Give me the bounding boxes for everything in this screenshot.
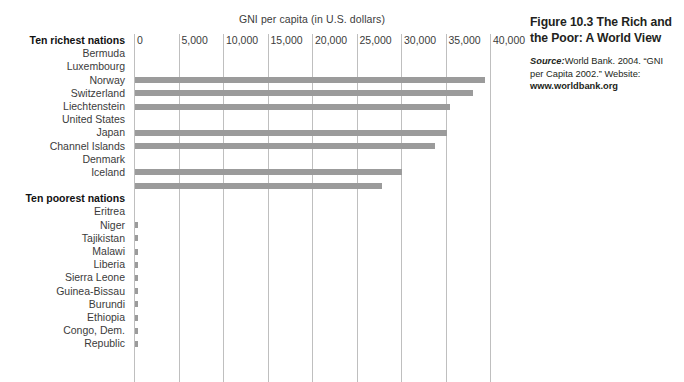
bar-row (134, 126, 490, 139)
bar (135, 262, 138, 268)
bar-row (134, 245, 490, 258)
bar-row (134, 192, 490, 205)
bar-row (134, 337, 490, 350)
source-url: www.worldbank.org (530, 81, 618, 91)
bar-row (134, 140, 490, 153)
x-tick-label: 20,000 (312, 34, 347, 47)
bar-row (134, 47, 490, 60)
x-tick-label: 30,000 (401, 34, 436, 47)
bar-row (134, 285, 490, 298)
bar (135, 104, 450, 110)
category-label: Tajikistan (0, 232, 130, 245)
category-label: Ethiopia (0, 311, 130, 324)
bar-row (134, 232, 490, 245)
x-tick-label: 10,000 (223, 34, 258, 47)
source-label: Source: (530, 56, 565, 66)
bars-layer (134, 47, 490, 382)
figure-caption: Figure 10.3 The Rich and the Poor: A Wor… (530, 14, 674, 93)
category-label-column: Ten richest nationsBermudaLuxembourgNorw… (0, 34, 130, 351)
x-tick-label: 25,000 (357, 34, 392, 47)
bar-row (134, 153, 490, 166)
caption-figure-number: Figure 10.3 (530, 15, 593, 29)
bar-row (134, 166, 490, 179)
category-label: Eritrea (0, 205, 130, 218)
chart-block: GNI per capita (in U.S. dollars) Ten ric… (0, 0, 520, 382)
figure-container: GNI per capita (in U.S. dollars) Ten ric… (0, 0, 684, 382)
bar (135, 90, 473, 96)
bar-row (134, 351, 490, 364)
category-label: Niger (0, 219, 130, 232)
bar-row (134, 311, 490, 324)
bar (135, 341, 138, 347)
category-label: Liberia (0, 258, 130, 271)
bar-row (134, 219, 490, 232)
category-label: Luxembourg (0, 60, 130, 73)
bar (135, 77, 485, 83)
bar (135, 222, 138, 228)
x-tick-label: 40,000 (490, 34, 525, 47)
bar-row (134, 87, 490, 100)
category-label: United States (0, 113, 130, 126)
category-label: Norway (0, 74, 130, 87)
category-label: Congo, Dem. (0, 324, 130, 337)
bar-row (134, 258, 490, 271)
bar-row (134, 100, 490, 113)
category-label: Sierra Leone (0, 271, 130, 284)
category-label: Channel Islands (0, 140, 130, 153)
chart-title: GNI per capita (in U.S. dollars) (134, 13, 490, 25)
bar (135, 130, 447, 136)
bar-row (134, 324, 490, 337)
bar-row (134, 271, 490, 284)
bar-row (134, 74, 490, 87)
category-label: Malawi (0, 245, 130, 258)
category-label: Denmark (0, 153, 130, 166)
category-label: Burundi (0, 298, 130, 311)
category-label: Guinea-Bissau (0, 285, 130, 298)
bar-row (134, 298, 490, 311)
bar (135, 183, 382, 189)
x-tick-label: 5,000 (179, 34, 208, 47)
category-label: Republic (0, 337, 130, 350)
category-label: Iceland (0, 166, 130, 179)
bar-row (134, 179, 490, 192)
category-label: Japan (0, 126, 130, 139)
row-spacer (0, 179, 130, 192)
bar (135, 143, 435, 149)
group-label: Ten richest nations (0, 34, 130, 47)
plot-area: 05,00010,00015,00020,00025,00030,00035,0… (134, 34, 490, 382)
caption-source: Source:World Bank. 2004. “GNI per Capita… (530, 55, 674, 93)
bar (135, 301, 138, 307)
x-tick-label: 15,000 (268, 34, 303, 47)
category-label: Liechtenstein (0, 100, 130, 113)
caption-heading: Figure 10.3 The Rich and the Poor: A Wor… (530, 14, 674, 46)
bar (135, 169, 402, 175)
bar (135, 249, 138, 255)
bar-row (134, 60, 490, 73)
bar (135, 275, 138, 281)
bar (135, 288, 138, 294)
bar (135, 328, 138, 334)
group-label: Ten poorest nations (0, 192, 130, 205)
x-tick-label: 35,000 (446, 34, 481, 47)
x-tick-label: 0 (134, 34, 143, 47)
bar-row (134, 113, 490, 126)
category-label: Switzerland (0, 87, 130, 100)
bar (135, 315, 138, 321)
bar-row (134, 205, 490, 218)
category-label: Bermuda (0, 47, 130, 60)
gridline (490, 34, 491, 382)
bar (135, 235, 138, 241)
